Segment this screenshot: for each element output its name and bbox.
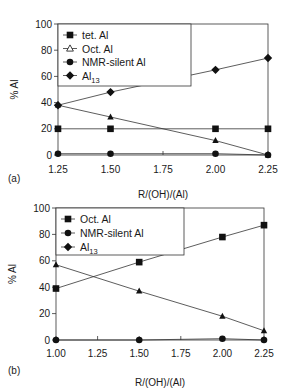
chart-panel-a: 0204060801001.251.501.752.002.25R/(OH)/(…: [8, 19, 278, 201]
y-tick-label: 80: [41, 45, 53, 56]
x-tick-label: 1.75: [171, 348, 191, 359]
data-point-nmr-silent-al: [53, 337, 60, 344]
data-point-al13: [53, 261, 59, 267]
figure: 0204060801001.251.501.752.002.25R/(OH)/(…: [0, 0, 300, 391]
series-line-al13: [56, 265, 264, 331]
x-tick-label: 1.00: [46, 348, 66, 359]
data-point-nmr-silent-al: [55, 150, 62, 157]
legend-box: [58, 24, 191, 86]
series-line-oct-al: [58, 105, 268, 155]
legend-label: tet. Al: [82, 29, 108, 41]
legend-label: Oct. Al: [82, 43, 113, 55]
x-tick-label: 2.00: [206, 164, 226, 175]
y-tick-label: 0: [44, 335, 50, 346]
x-tick-label: 1.50: [101, 164, 121, 175]
x-tick-label: 1.25: [88, 348, 108, 359]
data-point-nmr-silent-al: [261, 337, 268, 344]
data-point-al13: [211, 66, 219, 74]
chart-panel-b: 0204060801001.001.251.501.752.002.25R/(O…: [7, 203, 274, 389]
data-point-al13: [264, 54, 272, 62]
data-point-tet-al: [107, 126, 114, 133]
y-tick-label: 0: [46, 150, 52, 161]
data-point-al13: [106, 88, 114, 96]
y-tick-label: 100: [35, 19, 52, 30]
y-tick-label: 60: [39, 255, 51, 266]
x-tick-label: 1.25: [48, 164, 68, 175]
x-axis-label: R/(OH)/(Al): [138, 189, 188, 200]
legend-label-subscript: 13: [89, 247, 97, 256]
data-point-nmr-silent-al: [136, 337, 143, 344]
legend-marker-circle: [65, 230, 72, 237]
legend-marker-square: [67, 32, 74, 39]
x-axis-label: R/(OH)/(Al): [135, 377, 185, 388]
legend-marker-circle: [67, 59, 74, 66]
y-tick-label: 40: [39, 282, 51, 293]
legend-label: NMR-silent Al: [80, 227, 144, 239]
data-point-oct-al: [53, 285, 60, 292]
data-point-tet-al: [212, 126, 219, 133]
data-point-tet-al: [55, 126, 62, 133]
y-axis-label: % Al: [9, 79, 20, 99]
y-tick-label: 100: [33, 203, 50, 214]
data-point-nmr-silent-al: [219, 335, 226, 342]
x-tick-label: 2.25: [254, 348, 274, 359]
data-point-nmr-silent-al: [212, 150, 219, 157]
x-tick-label: 2.00: [213, 348, 233, 359]
legend-label-subscript: 13: [91, 76, 99, 85]
x-tick-label: 1.50: [129, 348, 149, 359]
y-axis-label: % Al: [7, 264, 18, 284]
panel-label: (b): [8, 365, 20, 376]
y-tick-label: 40: [41, 97, 53, 108]
panel-label: (a): [8, 173, 20, 184]
y-tick-label: 80: [39, 229, 51, 240]
y-tick-label: 60: [41, 71, 53, 82]
data-point-oct-al: [136, 259, 143, 266]
x-tick-label: 2.25: [258, 164, 278, 175]
data-point-nmr-silent-al: [107, 150, 114, 157]
x-tick-label: 1.75: [153, 164, 173, 175]
legend-label: NMR-silent Al: [82, 56, 146, 68]
legend-marker-square: [65, 216, 72, 223]
y-tick-label: 20: [41, 123, 53, 134]
legend-label: Oct. Al: [80, 213, 111, 225]
y-tick-label: 20: [39, 308, 51, 319]
data-point-oct-al: [219, 234, 226, 241]
data-point-tet-al: [265, 126, 272, 133]
data-point-nmr-silent-al: [265, 152, 272, 159]
data-point-oct-al: [261, 222, 268, 229]
